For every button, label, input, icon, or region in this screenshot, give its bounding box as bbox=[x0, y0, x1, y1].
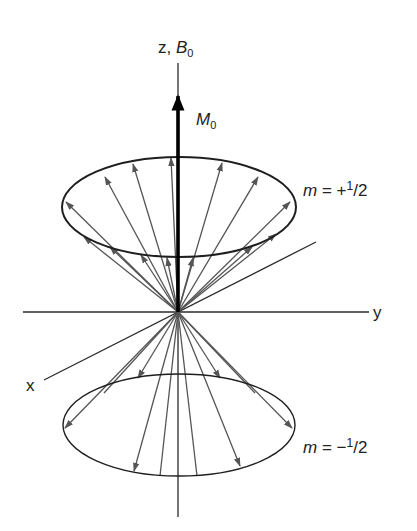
spin-cones-diagram: z, B0 M0 m = +1/2 m = −1/2 y x bbox=[0, 0, 417, 531]
net-magnetization-label: M0 bbox=[196, 110, 216, 131]
y-axis-label: y bbox=[373, 303, 382, 322]
lower-cone-label: m = −1/2 bbox=[303, 436, 367, 457]
z-axis-label: z, B0 bbox=[158, 38, 193, 59]
lower-precession-ellipse bbox=[63, 374, 295, 476]
upper-cone-label: m = +1/2 bbox=[303, 179, 367, 200]
x-axis-label: x bbox=[26, 376, 35, 395]
